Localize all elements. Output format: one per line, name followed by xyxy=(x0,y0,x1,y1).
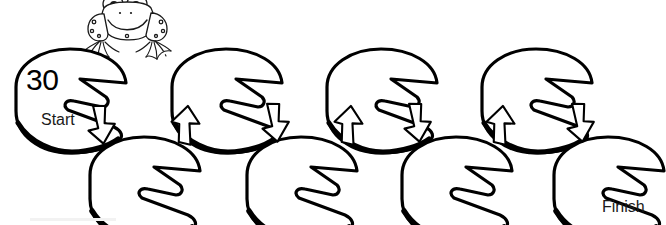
start-pad-number: 30 xyxy=(26,63,58,97)
finish-label: Finish xyxy=(602,198,645,216)
scan-artifact xyxy=(30,218,116,221)
worksheet-canvas: 30 Start Finish xyxy=(0,0,666,225)
start-label: Start xyxy=(41,111,75,129)
lilypad-bottom-2[interactable] xyxy=(247,137,357,225)
illustration-layer xyxy=(0,0,666,225)
frog-icon xyxy=(84,0,171,59)
lilypad-bottom-3[interactable] xyxy=(402,137,512,225)
lilypad-bottom-1[interactable] xyxy=(90,137,200,225)
